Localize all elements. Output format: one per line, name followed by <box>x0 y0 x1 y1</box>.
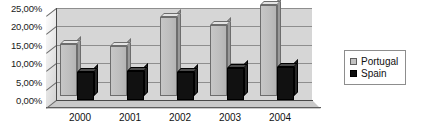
x-axis-tick-label: 2000 <box>69 112 91 123</box>
bar-spain-2000 <box>77 72 94 100</box>
bar-spain-2004 <box>277 67 294 100</box>
y-axis-tick-label: 10,00% <box>0 58 46 69</box>
y-axis-tick-label: 20,00% <box>0 21 46 32</box>
legend-label: Spain <box>361 68 387 79</box>
bar-face <box>160 17 177 96</box>
bar-face <box>227 68 244 100</box>
bar-top-face <box>110 42 131 46</box>
bar-face <box>260 5 277 96</box>
bar-portugal-2004 <box>260 5 277 96</box>
bar-chart: 0,00%5,00%10,00%15,00%20,00%25,00% 20002… <box>0 0 423 137</box>
legend-item-spain: Spain <box>350 68 398 79</box>
bar-face <box>127 71 144 100</box>
bar-spain-2002 <box>177 72 194 100</box>
legend-swatch-icon <box>350 58 357 65</box>
x-axis-line <box>56 100 313 101</box>
chart-legend: PortugalSpain <box>344 50 406 85</box>
x-axis-tick-label: 2002 <box>169 112 191 123</box>
bar-portugal-2003 <box>210 25 227 96</box>
legend-swatch-icon <box>350 70 357 77</box>
y-axis-tick-label: 15,00% <box>0 39 46 50</box>
bar-top-face <box>127 67 148 71</box>
bar-face <box>277 67 294 100</box>
y-axis-tick-label: 0,00% <box>0 95 46 106</box>
bar-group-2000 <box>60 8 108 100</box>
y-axis-tick-label: 5,00% <box>0 76 46 87</box>
bar-face <box>177 72 194 100</box>
y-axis: 0,00%5,00%10,00%15,00%20,00%25,00% <box>0 0 46 137</box>
legend-label: Portugal <box>361 56 398 67</box>
legend-item-portugal: Portugal <box>350 56 398 67</box>
bar-group-2002 <box>160 8 208 100</box>
y-axis-line <box>56 8 57 101</box>
bar-group-2004 <box>260 8 308 100</box>
x-axis-tick-label: 2001 <box>119 112 141 123</box>
bar-portugal-2002 <box>160 17 177 96</box>
bar-face <box>210 25 227 96</box>
bar-spain-2003 <box>227 68 244 100</box>
plot-area <box>46 8 321 108</box>
plot-floor-edge <box>46 107 321 108</box>
bar-portugal-2000 <box>60 44 77 96</box>
bar-spain-2001 <box>127 71 144 100</box>
bar-face <box>77 72 94 100</box>
bar-face <box>60 44 77 96</box>
y-axis-tick-label: 25,00% <box>0 3 46 14</box>
bar-portugal-2001 <box>110 46 127 96</box>
x-axis-tick-label: 2004 <box>269 112 291 123</box>
bar-group-2001 <box>110 8 158 100</box>
y-axis-tick-mark <box>46 100 57 109</box>
x-axis-tick-label: 2003 <box>219 112 241 123</box>
bar-group-2003 <box>210 8 258 100</box>
bar-face <box>110 46 127 96</box>
bar-top-face <box>260 1 281 5</box>
